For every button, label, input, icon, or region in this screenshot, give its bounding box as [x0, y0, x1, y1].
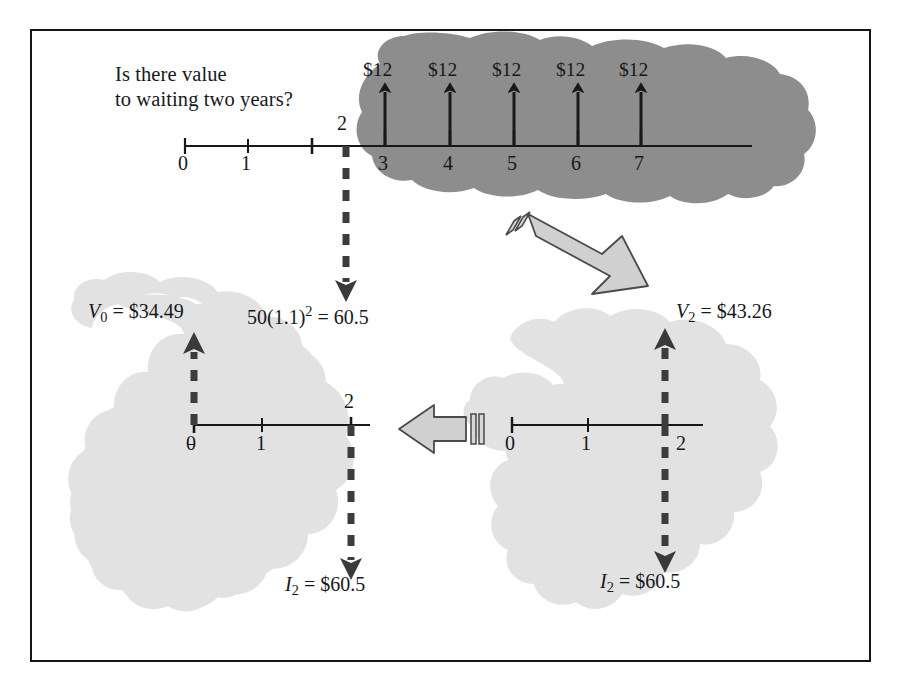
left-outflow-equals: =: [304, 573, 315, 595]
right-fv-symbol: V: [676, 300, 688, 322]
left-tick-label-0: 0: [186, 432, 196, 456]
left-tick-label-1: 1: [256, 432, 266, 456]
right-outflow-symbol: I: [600, 570, 607, 592]
top-tick-label-1: 1: [241, 152, 251, 176]
right-outflow-value: $60.5: [635, 570, 680, 592]
top-tick-label-6: 6: [571, 152, 581, 176]
right-tick-label-1: 1: [581, 432, 591, 456]
left-present-value-label: V0 = $34.49: [88, 300, 184, 326]
right-outflow-subscript: 2: [607, 579, 614, 595]
left-pv-symbol: V: [88, 300, 100, 322]
question-line-2: to waiting two years?: [115, 87, 293, 111]
left-pv-equals: =: [112, 300, 123, 322]
left-pv-value: $34.49: [129, 300, 184, 322]
figure-root: Is there value to waiting two years? 0 1…: [0, 0, 898, 693]
left-outflow-label: I2 = $60.5: [285, 573, 365, 599]
right-future-value-label: V2 = $43.26: [676, 300, 772, 326]
light-blob-right: [464, 308, 778, 609]
cash-flow-label-5: $12: [492, 58, 521, 81]
formula-base: 50(1.1): [247, 306, 305, 328]
right-tick-label-0: 0: [505, 432, 515, 456]
top-tick-label-5: 5: [507, 152, 517, 176]
compounding-formula: 50(1.1)2 = 60.5: [247, 303, 369, 330]
right-outflow-equals: =: [619, 570, 630, 592]
right-fv-subscript: 2: [688, 309, 695, 325]
top-tick-label-7: 7: [634, 152, 644, 176]
right-fv-value: $43.26: [717, 300, 772, 322]
cash-flow-label-3: $12: [363, 58, 392, 81]
left-pv-subscript: 0: [100, 309, 107, 325]
cash-flow-label-6: $12: [556, 58, 585, 81]
cash-flow-label-4: $12: [428, 58, 457, 81]
top-tick-label-2: 2: [337, 112, 347, 136]
top-tick-label-4: 4: [443, 152, 453, 176]
dark-blob: [357, 31, 816, 203]
formula-exponent: 2: [305, 303, 312, 319]
right-fv-equals: =: [700, 300, 711, 322]
left-outflow-subscript: 2: [292, 582, 299, 598]
top-tick-label-0: 0: [178, 152, 188, 176]
left-outflow-symbol: I: [285, 573, 292, 595]
formula-result: = 60.5: [318, 306, 369, 328]
right-tick-label-2: 2: [676, 432, 686, 456]
question-line-1: Is there value: [115, 62, 227, 86]
down-right-block-arrow: [506, 212, 648, 294]
top-tick-label-3: 3: [378, 152, 388, 176]
left-outflow-value: $60.5: [320, 573, 365, 595]
left-tick-label-2: 2: [344, 390, 354, 414]
cash-flow-label-7: $12: [619, 58, 648, 81]
right-outflow-label: I2 = $60.5: [600, 570, 680, 596]
